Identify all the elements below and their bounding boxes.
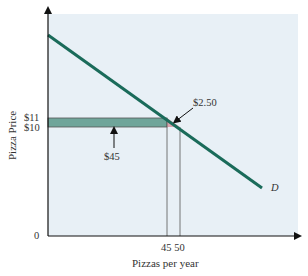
y-axis-label: Pizza Price (6, 111, 18, 160)
tick-price-10: $10 (24, 123, 40, 134)
x-axis-label: Pizzas per year (132, 258, 199, 269)
area-45-label: $45 (104, 152, 120, 163)
chart-canvas (0, 0, 308, 276)
origin-label: 0 (34, 231, 39, 242)
revenue-band-45 (48, 118, 167, 127)
area-250-label: $2.50 (193, 98, 217, 109)
tick-qty-45-50: 45 50 (161, 243, 185, 254)
demand-curve-label: D (271, 183, 279, 194)
